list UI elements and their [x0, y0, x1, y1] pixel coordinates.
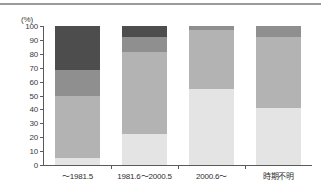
bar: [256, 26, 301, 165]
bar-segment: [55, 26, 100, 70]
top-divider: [0, 3, 321, 5]
x-axis-label: 1981.6～2000.5: [117, 170, 171, 181]
bar-segment: [55, 96, 100, 159]
bar: [189, 26, 234, 165]
x-axis-separator: [245, 165, 246, 169]
y-tick-label: 70: [30, 63, 39, 72]
x-axis-separator: [178, 165, 179, 169]
bar-segment: [189, 30, 234, 88]
bar-segment: [122, 52, 167, 134]
plot-area: 0102030405060708090100: [44, 26, 312, 165]
x-axis-label: 時期不明: [263, 170, 294, 181]
x-axis-label: 2000.6～: [196, 170, 227, 181]
y-tick-label: 90: [30, 35, 39, 44]
bar-segment: [122, 134, 167, 165]
bar-segment: [189, 26, 234, 30]
x-axis-labels: ～1981.51981.6～2000.52000.6～時期不明: [44, 168, 312, 186]
bar-segment: [122, 37, 167, 52]
x-axis-separator: [111, 165, 112, 169]
bar-segment: [256, 37, 301, 108]
bar: [122, 26, 167, 165]
bar-segment: [256, 108, 301, 165]
y-tick-label: 50: [30, 91, 39, 100]
y-tick-label: 80: [30, 49, 39, 58]
y-tick-label: 40: [30, 105, 39, 114]
bar-segment: [122, 26, 167, 37]
y-tick-label: 0: [34, 161, 38, 170]
y-tick-label: 60: [30, 77, 39, 86]
y-tick-label: 30: [30, 119, 39, 128]
x-axis-label: ～1981.5: [62, 170, 93, 181]
y-tick-label: 100: [25, 22, 38, 31]
y-tick-label: 10: [30, 147, 39, 156]
y-tick-label: 20: [30, 133, 39, 142]
bar-segment: [189, 89, 234, 165]
bar-segment: [55, 158, 100, 165]
bar: [55, 26, 100, 165]
bar-segment: [55, 70, 100, 95]
bars-layer: [44, 26, 312, 165]
bar-segment: [256, 26, 301, 37]
y-tick-mark: [40, 165, 44, 166]
stacked-bar-chart: (%) 0102030405060708090100 ～1981.51981.6…: [0, 0, 321, 188]
